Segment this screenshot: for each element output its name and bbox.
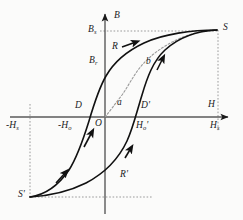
label-h-saturation-negative: -Hs	[6, 121, 19, 131]
axis-label-b: B	[114, 11, 120, 21]
arrow-descending-lower	[125, 148, 131, 158]
label-b-saturation: Bs	[88, 25, 97, 35]
label-h-coercive-positive: Ho'	[136, 121, 148, 131]
hysteresis-plot-svg	[0, 0, 243, 220]
label-origin: O	[95, 119, 102, 129]
label-b-remanence: Br	[89, 56, 98, 66]
label-h-saturation-positive: Hs	[210, 121, 220, 131]
label-point-d-prime: D'	[141, 101, 150, 111]
label-point-d: D	[75, 101, 82, 111]
label-virgin-a: a	[117, 98, 122, 108]
label-h-coercive-negative: -Ho	[58, 121, 72, 131]
label-point-s: S	[223, 23, 228, 33]
arrow-ascending-lower	[56, 172, 66, 183]
hysteresis-figure: B H Bs Br O S S' D D' R R' a b Hs -Hs	[0, 0, 243, 220]
label-virgin-b: b	[146, 57, 151, 67]
arrow-descending-upper	[157, 58, 163, 70]
axes	[10, 14, 228, 214]
axis-label-h: H	[208, 100, 215, 110]
label-branch-r-prime: R'	[120, 170, 128, 180]
arrow-ascending-top	[122, 42, 136, 47]
label-branch-r: R	[112, 42, 118, 52]
label-point-s-prime: S'	[18, 190, 25, 200]
